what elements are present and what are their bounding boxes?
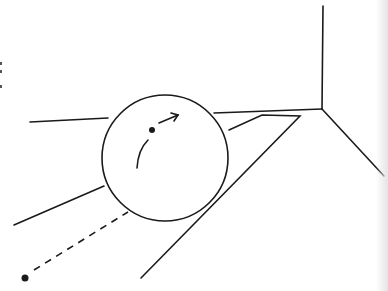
margin-mark	[0, 85, 2, 88]
spin-arc	[137, 140, 148, 168]
sphere-corner-diagram	[0, 0, 388, 291]
margin-mark	[0, 70, 2, 73]
sphere-contact-dot	[149, 127, 155, 133]
point-marker	[22, 275, 29, 282]
sphere-outline	[102, 95, 228, 221]
side-wall-floor-edge	[322, 109, 384, 176]
diagram-canvas	[0, 0, 388, 291]
lower-left-tangent-line	[14, 186, 104, 225]
back-wall-floor-edge	[214, 109, 322, 113]
upper-left-tangent-line	[30, 118, 108, 122]
vertical-corner-edge	[322, 6, 323, 109]
margin-mark	[0, 62, 2, 65]
shadow-wedge-outline	[141, 115, 300, 278]
page-edge-shadow	[376, 0, 388, 291]
dashed-projection-line	[34, 212, 128, 270]
